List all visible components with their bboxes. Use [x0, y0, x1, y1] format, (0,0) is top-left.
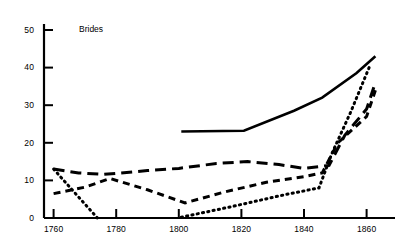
y-tick-label-0: 0	[12, 213, 34, 223]
y-axis-ticks	[44, 30, 53, 218]
x-axis-ticks	[54, 209, 367, 218]
brides-line-chart: 50 40 30 20 10 0 1760 1780 1800 1820 184…	[0, 0, 419, 250]
chart-axes	[44, 24, 395, 218]
chart-title: Brides	[79, 24, 103, 34]
y-tick-label-30: 30	[12, 100, 34, 110]
x-tick-label-1800: 1800	[162, 224, 196, 234]
x-tick-label-1860: 1860	[350, 224, 384, 234]
y-tick-label-40: 40	[12, 62, 34, 72]
y-tick-label-10: 10	[12, 175, 34, 185]
series-short-dash	[54, 90, 376, 203]
series-dotted-late	[181, 68, 369, 218]
x-tick-label-1840: 1840	[287, 224, 321, 234]
y-tick-label-50: 50	[12, 25, 34, 35]
series-solid	[181, 56, 375, 131]
x-tick-label-1760: 1760	[37, 224, 71, 234]
y-tick-label-20: 20	[12, 138, 34, 148]
chart-series-group	[54, 56, 376, 218]
chart-plot-area	[0, 0, 419, 250]
x-tick-label-1780: 1780	[99, 224, 133, 234]
x-tick-label-1820: 1820	[224, 224, 258, 234]
